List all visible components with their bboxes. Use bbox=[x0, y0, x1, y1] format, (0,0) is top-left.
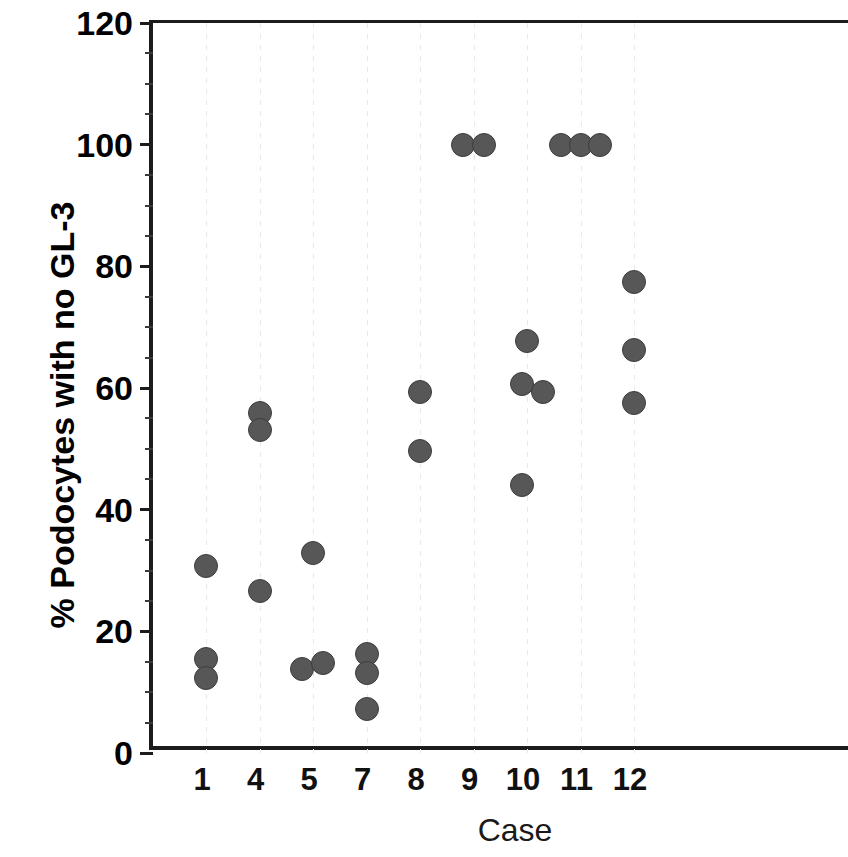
gridline-case-12 bbox=[634, 23, 635, 753]
y-minor-tick bbox=[145, 296, 153, 298]
y-tick-label-40: 40 bbox=[95, 490, 133, 529]
y-minor-tick bbox=[145, 326, 153, 328]
x-tick-label-case-12: 12 bbox=[613, 762, 647, 798]
y-minor-tick bbox=[145, 83, 153, 85]
y-minor-tick bbox=[145, 478, 153, 480]
y-tick-label-80: 80 bbox=[95, 247, 133, 286]
y-tick-100 bbox=[140, 143, 153, 146]
y-tick-0 bbox=[140, 752, 153, 755]
y-minor-tick bbox=[145, 722, 153, 724]
data-point bbox=[355, 661, 379, 685]
data-point bbox=[622, 338, 646, 362]
y-minor-tick bbox=[145, 52, 153, 54]
gridline-case-9 bbox=[474, 23, 475, 753]
gridline-case-5 bbox=[313, 23, 314, 753]
y-tick-label-0: 0 bbox=[114, 734, 133, 773]
y-tick-80 bbox=[140, 265, 153, 268]
data-point bbox=[248, 418, 272, 442]
gridline-case-1 bbox=[206, 23, 207, 753]
y-minor-tick bbox=[145, 205, 153, 207]
data-point bbox=[408, 380, 432, 404]
y-minor-tick bbox=[145, 174, 153, 176]
data-point bbox=[311, 651, 335, 675]
x-tick-label-case-8: 8 bbox=[407, 762, 424, 798]
data-point bbox=[355, 697, 379, 721]
x-axis-title: Case bbox=[370, 812, 660, 849]
data-point bbox=[588, 133, 612, 157]
y-minor-tick bbox=[145, 600, 153, 602]
data-point bbox=[301, 541, 325, 565]
y-minor-tick bbox=[145, 235, 153, 237]
x-tick-label-case-4: 4 bbox=[247, 762, 264, 798]
y-minor-tick bbox=[145, 448, 153, 450]
data-point bbox=[408, 439, 432, 463]
y-axis-title: % Podocytes with no GL-3 bbox=[39, 65, 85, 765]
x-tick-label-case-9: 9 bbox=[461, 762, 478, 798]
y-minor-tick bbox=[145, 661, 153, 663]
x-tick-label-case-1: 1 bbox=[193, 762, 210, 798]
data-point bbox=[531, 380, 555, 404]
data-point bbox=[248, 579, 272, 603]
data-point bbox=[194, 554, 218, 578]
y-tick-40 bbox=[140, 508, 153, 511]
plot-area: 020406080100120 bbox=[149, 20, 848, 750]
data-point bbox=[510, 473, 534, 497]
y-minor-tick bbox=[145, 570, 153, 572]
y-minor-tick bbox=[145, 539, 153, 541]
y-tick-label-20: 20 bbox=[95, 612, 133, 651]
y-tick-label-100: 100 bbox=[76, 125, 133, 164]
data-point bbox=[515, 329, 539, 353]
y-minor-tick bbox=[145, 113, 153, 115]
x-tick-label-case-10: 10 bbox=[506, 762, 540, 798]
x-tick-label-case-11: 11 bbox=[560, 762, 593, 798]
data-point bbox=[622, 391, 646, 415]
data-point bbox=[194, 666, 218, 690]
y-tick-60 bbox=[140, 387, 153, 390]
y-tick-20 bbox=[140, 630, 153, 633]
x-tick-label-case-5: 5 bbox=[300, 762, 317, 798]
x-tick-label-case-7: 7 bbox=[354, 762, 371, 798]
y-minor-tick bbox=[145, 691, 153, 693]
data-point bbox=[622, 270, 646, 294]
scatter-plot-figure: % Podocytes with no GL-3 020406080100120… bbox=[0, 0, 848, 857]
y-tick-label-120: 120 bbox=[76, 4, 133, 43]
data-point bbox=[472, 133, 496, 157]
gridline-case-4 bbox=[260, 23, 261, 753]
y-tick-120 bbox=[140, 22, 153, 25]
y-minor-tick bbox=[145, 357, 153, 359]
data-point bbox=[451, 133, 475, 157]
y-minor-tick bbox=[145, 417, 153, 419]
y-tick-label-60: 60 bbox=[95, 369, 133, 408]
